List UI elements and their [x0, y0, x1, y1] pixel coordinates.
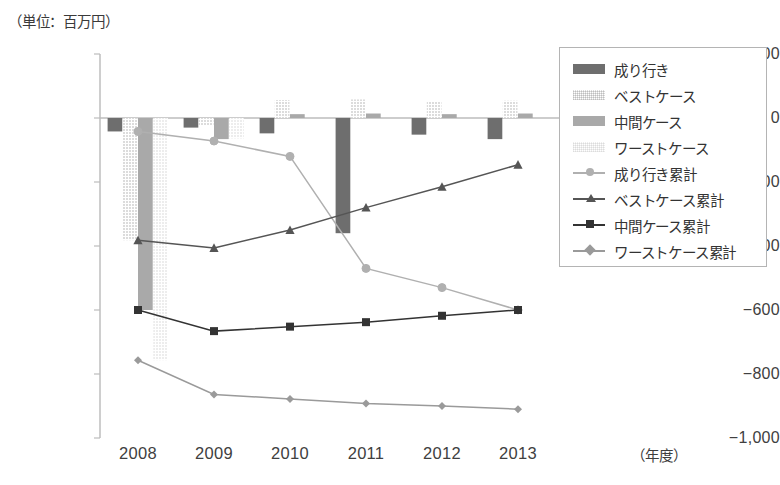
legend-swatch-icon [573, 134, 605, 160]
line-series [134, 356, 522, 413]
legend-item-label: 中間ケース累計 [614, 215, 710, 236]
bar-series [123, 99, 518, 240]
legend-item[interactable]: ワーストケース累計 [560, 238, 766, 264]
bar [108, 118, 123, 131]
legend-item-label: ベストケース累計 [614, 189, 723, 210]
series-line [138, 165, 518, 248]
legend-swatch-icon [573, 186, 605, 212]
chart-legend: 成り行きベストケース中間ケースワーストケース成り行き累計ベストケース累計中間ケー… [559, 47, 767, 267]
legend-item-label: 成り行き累計 [614, 163, 697, 184]
bar [184, 118, 199, 128]
data-point-marker [286, 323, 294, 331]
data-point-marker [438, 312, 446, 320]
bar [229, 118, 244, 138]
data-point-marker [362, 264, 370, 272]
series-line [138, 360, 518, 409]
line-series [134, 127, 522, 314]
legend-item[interactable]: 成り行き [560, 56, 766, 82]
data-point-marker [514, 306, 522, 314]
data-point-marker [438, 284, 446, 292]
bar-series [138, 114, 533, 310]
bar [275, 100, 290, 118]
legend-item[interactable]: 中間ケース [560, 108, 766, 134]
legend-item[interactable]: ワーストケース [560, 134, 766, 160]
legend-item-label: 中間ケース [614, 111, 682, 132]
data-point-marker [362, 399, 370, 407]
bar [518, 114, 533, 118]
bar [427, 101, 442, 118]
legend-item[interactable]: 中間ケース累計 [560, 212, 766, 238]
data-point-marker [210, 390, 218, 398]
bar [123, 118, 138, 240]
bar [412, 118, 427, 135]
line-series [134, 306, 522, 335]
data-point-marker [514, 405, 522, 413]
legend-item-label: ワーストケース [614, 137, 709, 158]
legend-item[interactable]: ベストケース累計 [560, 186, 766, 212]
data-point-marker [513, 160, 522, 169]
bar [366, 114, 381, 118]
legend-item-list: 成り行きベストケース中間ケースワーストケース成り行き累計ベストケース累計中間ケー… [560, 56, 766, 264]
chart-container: （単位：百万円） 2000−200−400−600−800−1,000 2008… [0, 0, 780, 485]
line-series [133, 160, 522, 252]
data-point-marker [134, 127, 142, 135]
data-point-marker [438, 402, 446, 410]
bar [260, 118, 275, 133]
legend-swatch-icon [573, 238, 605, 264]
legend-item-label: 成り行き [614, 59, 669, 80]
bar-series [153, 118, 244, 360]
bar [442, 114, 457, 118]
bar [503, 101, 518, 118]
data-point-marker [210, 327, 218, 335]
legend-swatch-icon [573, 160, 605, 186]
bar [199, 118, 214, 126]
bar [138, 118, 153, 310]
legend-item-label: ワーストケース累計 [614, 241, 736, 262]
legend-swatch-icon [573, 212, 605, 238]
data-point-marker [134, 306, 142, 314]
legend-item[interactable]: 成り行き累計 [560, 160, 766, 186]
series-line [138, 131, 518, 310]
data-point-marker [286, 152, 294, 160]
legend-item[interactable]: ベストケース [560, 82, 766, 108]
series-line [138, 310, 518, 331]
bar [153, 118, 168, 360]
legend-swatch-icon [573, 82, 605, 108]
bar [488, 118, 503, 139]
data-point-marker [286, 395, 294, 403]
data-point-marker [210, 137, 218, 145]
bar [351, 99, 366, 118]
bar [214, 118, 229, 139]
legend-item-label: ベストケース [614, 85, 696, 106]
data-point-marker [362, 318, 370, 326]
data-point-marker [134, 356, 142, 364]
legend-swatch-icon [573, 56, 605, 82]
bar [290, 114, 305, 118]
legend-swatch-icon [573, 108, 605, 134]
